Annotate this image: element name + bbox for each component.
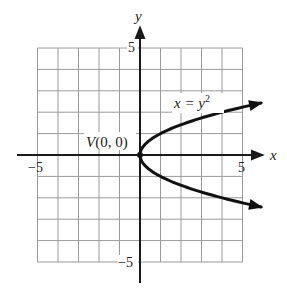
vertex-label: V(0, 0) — [86, 134, 128, 151]
y-tick-neg5: −5 — [118, 255, 133, 270]
parabola-graph: x y −5 5 5 −5 V(0, 0) x = y2 — [0, 0, 287, 300]
x-tick-neg5: −5 — [28, 160, 43, 175]
vertex-point — [137, 152, 143, 158]
x-axis-label: x — [269, 147, 277, 163]
equation-label: x = y2 — [173, 93, 210, 111]
y-axis-label: y — [133, 8, 142, 24]
y-tick-pos5: 5 — [128, 40, 135, 55]
x-tick-pos5: 5 — [238, 160, 245, 175]
